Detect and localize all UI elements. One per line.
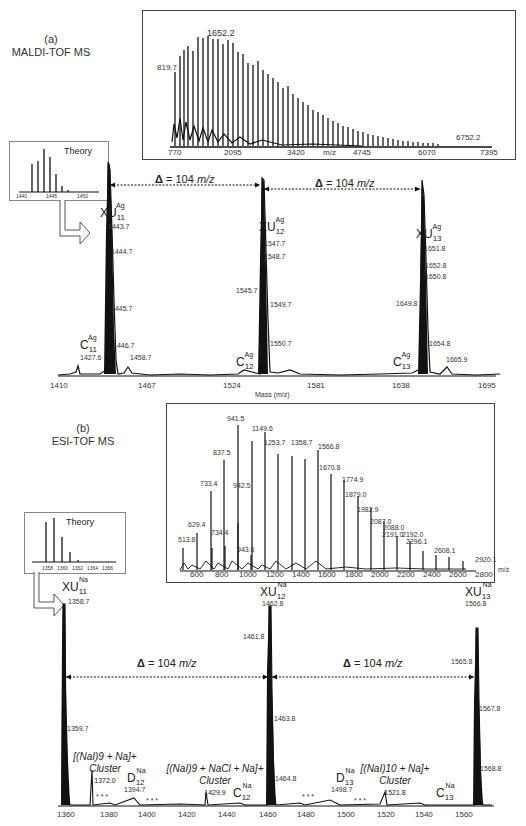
- esi-cluster-1: [(NaI)9 + Na]+ Cluster 1372.0: [70, 751, 140, 787]
- delta-value: = 104: [148, 657, 176, 669]
- cluster-word: Cluster: [355, 775, 435, 787]
- esi-tick-6: 1480: [297, 810, 315, 819]
- delta-value: = 104: [354, 657, 382, 669]
- esi-tick-3: 1420: [178, 810, 196, 819]
- esi-xu11-label: XU11Na: [62, 580, 96, 596]
- esi-stars: * * *: [96, 793, 108, 800]
- esi-mz-label: 1568.8: [480, 765, 501, 772]
- esi-main-spectrum: [0, 0, 526, 826]
- cluster-word: Cluster: [70, 763, 140, 775]
- esi-xu13-label: XU13Na: [465, 585, 500, 601]
- esi-mz-label: 1359.7: [67, 725, 88, 732]
- esi-mz-label: 1358.7: [68, 598, 89, 605]
- esi-delta-2: Δ = 104 m/z: [343, 657, 403, 669]
- cluster-formula: [(NaI)10 + Na]+: [355, 763, 435, 775]
- cluster-formula: [(NaI)9 + Na]+: [70, 751, 140, 763]
- esi-tick-8: 1520: [377, 810, 395, 819]
- esi-cluster-3: [(NaI)10 + Na]+ Cluster 1521.8: [355, 763, 435, 799]
- esi-tick-4: 1440: [218, 810, 236, 819]
- cluster-mz: 1429.9: [155, 787, 275, 799]
- esi-mz-label: 1463.8: [274, 715, 295, 722]
- esi-mz-label: 1498.7: [331, 786, 352, 793]
- esi-tick-5: 1460: [259, 810, 277, 819]
- esi-tick-10: 1560: [455, 810, 473, 819]
- delta-unit: m/z: [179, 657, 197, 669]
- esi-xu12-label: XU12Na: [260, 585, 295, 601]
- esi-tick-1: 1380: [100, 810, 118, 819]
- esi-tick-0: 1360: [57, 810, 75, 819]
- esi-mz-label: 1462.8: [262, 600, 283, 607]
- cluster-mz: 1521.8: [355, 787, 435, 799]
- esi-delta-1: Δ = 104 m/z: [137, 657, 197, 669]
- cluster-word: Cluster: [155, 775, 275, 787]
- esi-mz-label: 1461.8: [243, 633, 264, 640]
- esi-mz-label: 1566.8: [465, 600, 486, 607]
- cluster-formula: [(NaI)9 + NaCl + Na]+: [155, 763, 275, 775]
- esi-mz-label: 1394.7: [124, 786, 145, 793]
- esi-tick-7: 1500: [337, 810, 355, 819]
- esi-stars: * * *: [146, 797, 158, 804]
- esi-c13-label: C13Na: [436, 786, 463, 802]
- esi-stars: * * *: [302, 793, 314, 800]
- esi-tick-2: 1400: [138, 810, 156, 819]
- esi-mz-label: 1464.8: [275, 775, 296, 782]
- delta-unit: m/z: [385, 657, 403, 669]
- esi-stars: * * *: [354, 797, 366, 804]
- esi-cluster-2: [(NaI)9 + NaCl + Na]+ Cluster 1429.9: [155, 763, 275, 799]
- esi-mz-label: 1567.8: [479, 705, 500, 712]
- esi-tick-9: 1540: [415, 810, 433, 819]
- esi-mz-label: 1565.8: [451, 658, 472, 665]
